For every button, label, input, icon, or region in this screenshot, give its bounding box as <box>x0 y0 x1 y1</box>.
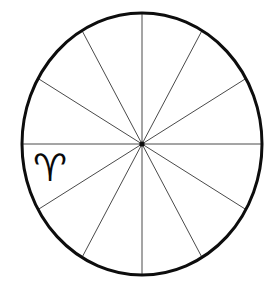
wheel-center-point <box>139 141 144 146</box>
zodiac-wheel-figure: ♈ <box>0 0 277 284</box>
zodiac-wheel-svg <box>0 0 277 284</box>
aries-glyph: ♈ <box>33 149 67 187</box>
